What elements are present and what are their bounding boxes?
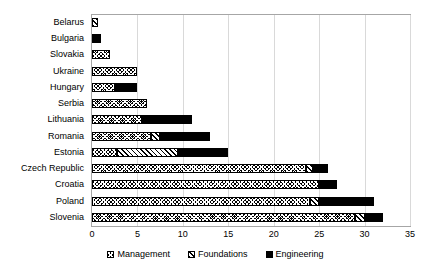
x-tick-label: 35 [398,229,422,239]
bar-row [92,31,410,47]
bar-segment-engineering [115,83,138,92]
bar-segment-management [92,83,115,92]
solid-black-swatch [266,251,273,258]
diagonal-hatch-swatch [188,251,195,258]
chart-legend: ManagementFoundationsEngineering [0,246,431,262]
x-tick-label: 25 [307,229,331,239]
category-label: Bulgaria [51,30,84,46]
legend-item: Management [107,249,170,259]
legend-label: Engineering [276,249,324,259]
bar-segment-engineering [313,164,328,173]
bar-row [92,47,410,63]
bar-segment-management [92,50,110,59]
x-tick-label: 0 [80,229,104,239]
bar-segment-engineering [142,115,192,124]
bar-row [92,96,410,112]
bar-segment-management [92,67,137,76]
category-label: Ukraine [53,63,84,79]
bar-segment-engineering [178,148,228,157]
bar-segment-foundations [117,148,178,157]
bar-row [92,112,410,128]
legend-item: Engineering [266,249,324,259]
bar-segment-engineering [319,197,374,206]
category-label: Estonia [54,144,84,160]
y-axis-category-labels: BelarusBulgariaSlovakiaUkraineHungarySer… [0,14,88,227]
bars-layer [92,15,410,226]
x-tick-label: 15 [216,229,240,239]
bar-row [92,64,410,80]
bar-row [92,80,410,96]
bar-row [92,194,410,210]
bar-segment-foundations [355,213,364,222]
bar-segment-management [92,164,306,173]
x-tick-label: 5 [125,229,149,239]
bar-row [92,129,410,145]
bar-segment-engineering [365,213,383,222]
stacked-bar-chart: BelarusBulgariaSlovakiaUkraineHungarySer… [0,0,431,271]
bar-row [92,15,410,31]
cross-hatch-swatch [107,251,114,258]
bar-segment-management [92,148,117,157]
gridline-35 [410,15,411,226]
category-label: Lithuania [47,111,84,127]
bar-segment-engineering [92,34,101,43]
bar-segment-management [92,197,310,206]
bar-segment-engineering [160,132,210,141]
category-label: Poland [56,193,84,209]
bar-segment-management [92,180,319,189]
bar-segment-management [92,213,355,222]
category-label: Czech Republic [21,160,84,176]
bar-segment-foundations [306,164,313,173]
x-tick-label: 10 [171,229,195,239]
bar-row [92,145,410,161]
category-label: Hungary [50,79,84,95]
x-tick-label: 30 [353,229,377,239]
bar-segment-management [92,132,151,141]
category-label: Belarus [53,14,84,30]
bar-row [92,161,410,177]
legend-item: Foundations [188,249,248,259]
bar-segment-foundations [310,197,319,206]
category-label: Slovenia [49,209,84,225]
bar-row [92,177,410,193]
bar-segment-management [92,115,142,124]
category-label: Slovakia [50,46,84,62]
legend-label: Management [117,249,170,259]
bar-segment-foundations [151,132,160,141]
category-label: Croatia [55,176,84,192]
legend-label: Foundations [198,249,248,259]
bar-segment-engineering [319,180,337,189]
bar-segment-foundations [92,18,98,27]
x-tick-label: 20 [262,229,286,239]
category-label: Serbia [58,95,84,111]
bar-row [92,210,410,226]
x-axis-tick-labels: 05101520253035 [0,229,431,243]
category-label: Romania [48,128,84,144]
bar-segment-management [92,99,147,108]
